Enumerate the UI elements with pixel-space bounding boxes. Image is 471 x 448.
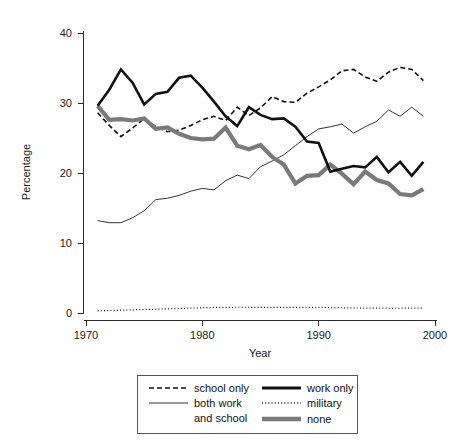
y-tick-label: 30	[60, 97, 72, 109]
y-tick-label: 20	[60, 167, 72, 179]
y-tick-label: 0	[66, 307, 72, 319]
y-tick-label: 10	[60, 237, 72, 249]
x-axis-title: Year	[249, 347, 272, 359]
legend-label-school-only: school only	[194, 382, 250, 394]
x-tick-label: 1970	[74, 329, 98, 341]
line-chart-figure: 010203040 Percentage 1970198019902000 Ye…	[0, 0, 471, 448]
legend-label-both-work: both work	[194, 397, 242, 409]
legend-label-none: none	[307, 413, 331, 425]
y-tick-label: 40	[60, 27, 72, 39]
legend-label-work-only: work only	[306, 382, 354, 394]
y-axis-title: Percentage	[20, 144, 32, 200]
x-tick-label: 2000	[423, 329, 447, 341]
x-tick-label: 1980	[190, 329, 214, 341]
legend: school only both work and school work on…	[138, 376, 358, 434]
legend-label-military: military	[307, 397, 342, 409]
x-tick-label: 1990	[306, 329, 330, 341]
legend-label-and-school: and school	[194, 412, 247, 424]
